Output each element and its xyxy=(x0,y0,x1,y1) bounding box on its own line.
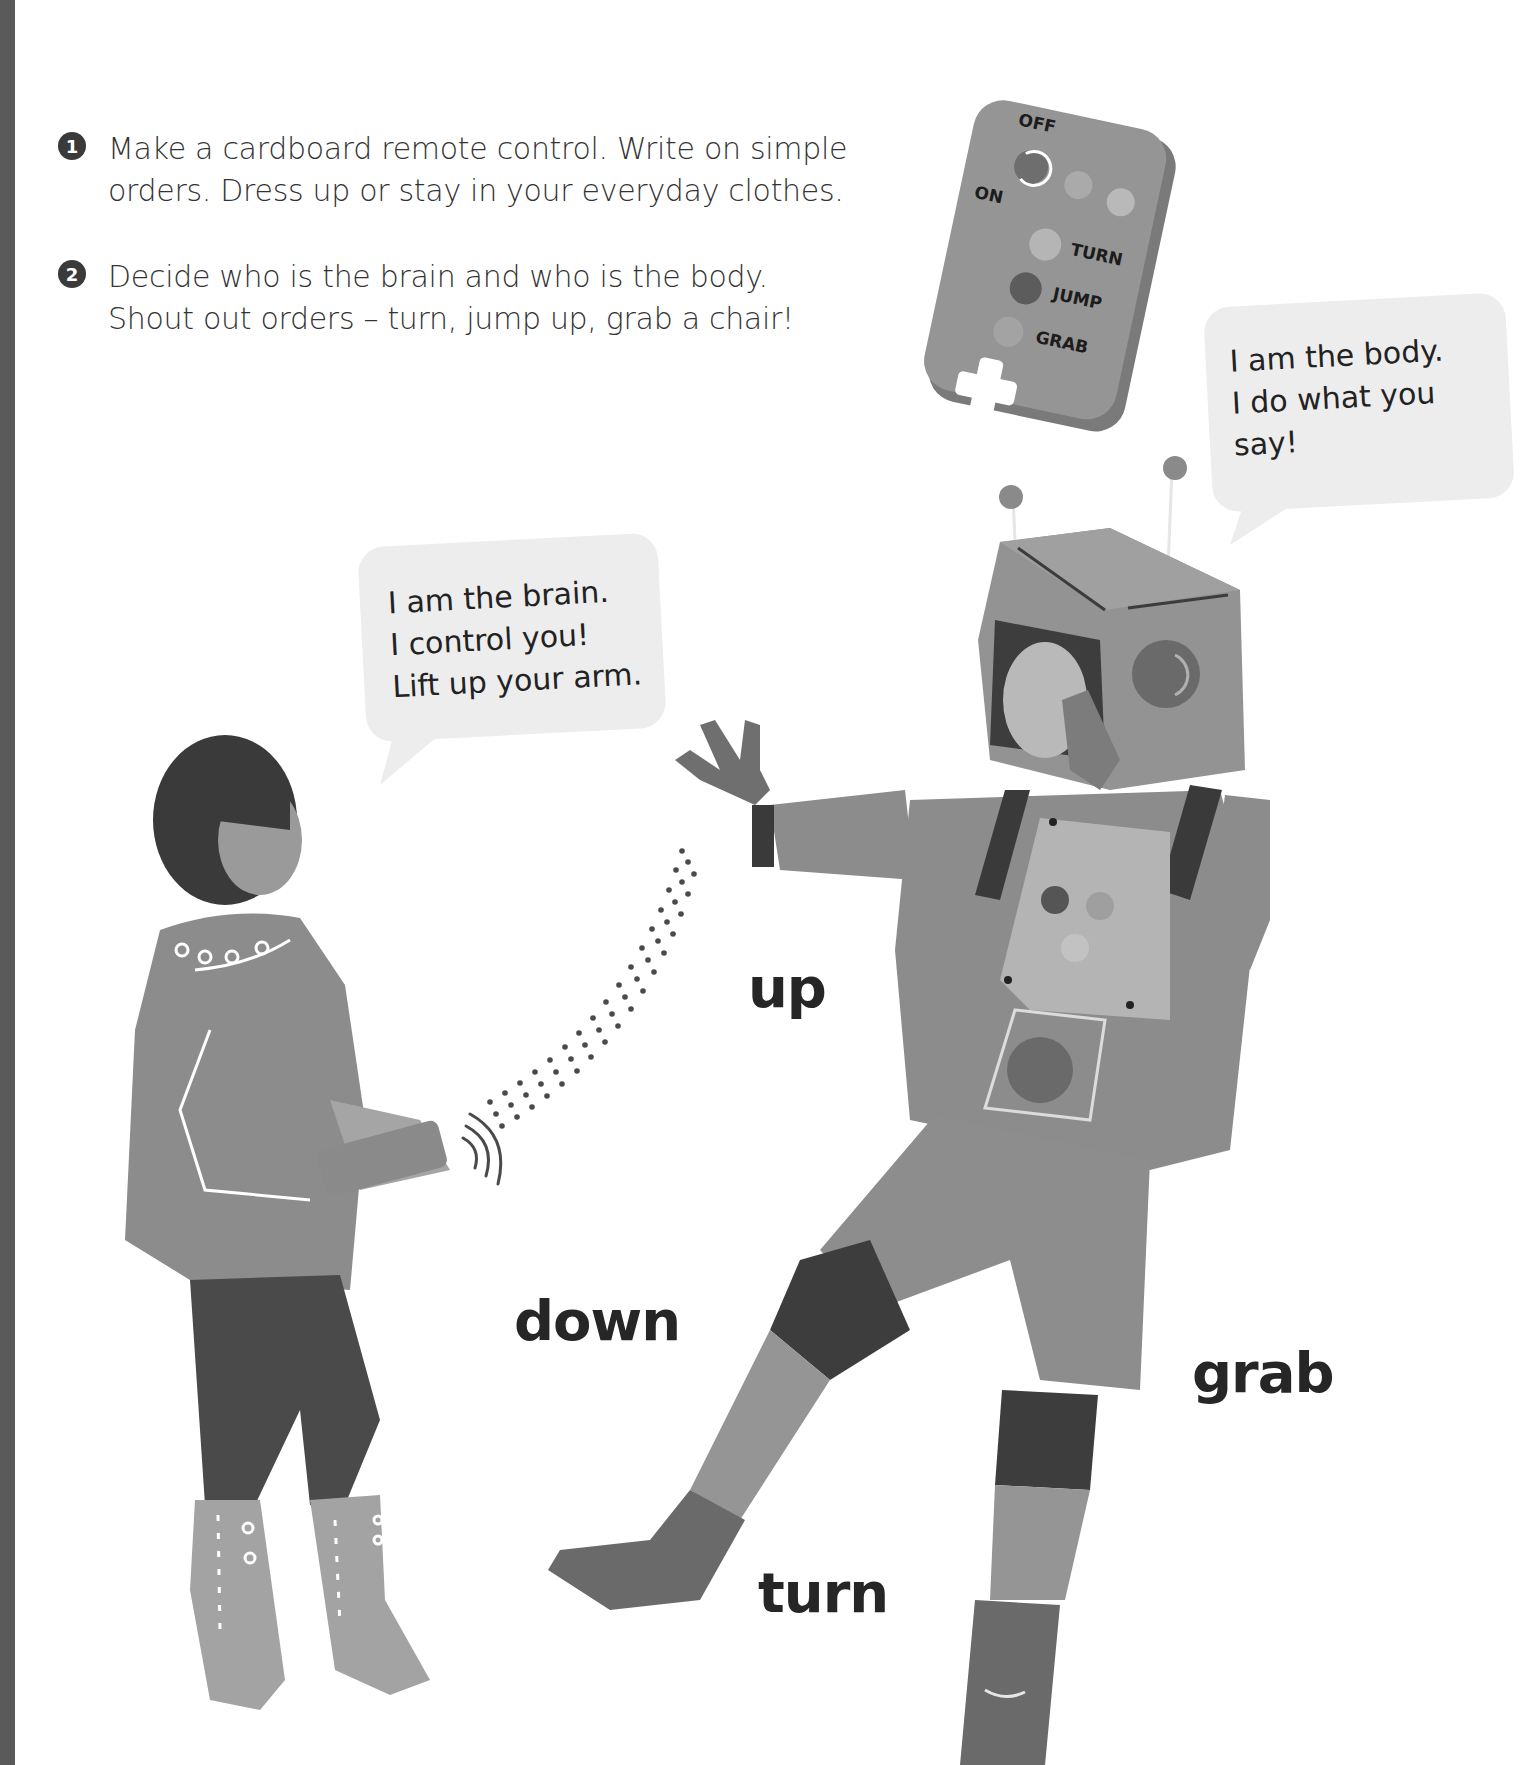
speech-bubble-body: I am the body. I do what you say! xyxy=(1203,292,1515,513)
step-line: orders. Dress up or stay in your everyda… xyxy=(108,170,847,212)
command-word-grab: grab xyxy=(1192,1340,1334,1405)
remote-label-jump: JUMP xyxy=(1051,283,1104,313)
command-word-up: up xyxy=(748,955,826,1020)
instruction-step-2: 2 Decide who is the brain and who is the… xyxy=(58,256,794,340)
instruction-step-1: 1 Make a cardboard remote control. Write… xyxy=(58,128,847,212)
step-number-badge: 1 xyxy=(58,132,86,160)
step-line: Decide who is the brain and who is the b… xyxy=(108,256,794,298)
speech-bubble-brain: I am the brain. I control you! Lift up y… xyxy=(357,532,667,742)
step-number-badge: 2 xyxy=(58,260,86,288)
command-word-down: down xyxy=(514,1288,680,1353)
remote-label-grab: GRAB xyxy=(1034,327,1090,358)
remote-label-turn: TURN xyxy=(1069,239,1125,270)
remote-label-off: OFF xyxy=(1017,109,1058,136)
remote-label-on: ON xyxy=(973,182,1005,208)
step-line: Make a cardboard remote control. Write o… xyxy=(108,128,847,170)
step-line: Shout out orders – turn, jump up, grab a… xyxy=(108,298,794,340)
command-word-turn: turn xyxy=(758,1560,888,1625)
step-text: Decide who is the brain and who is the b… xyxy=(108,256,794,340)
step-text: Make a cardboard remote control. Write o… xyxy=(108,128,847,212)
